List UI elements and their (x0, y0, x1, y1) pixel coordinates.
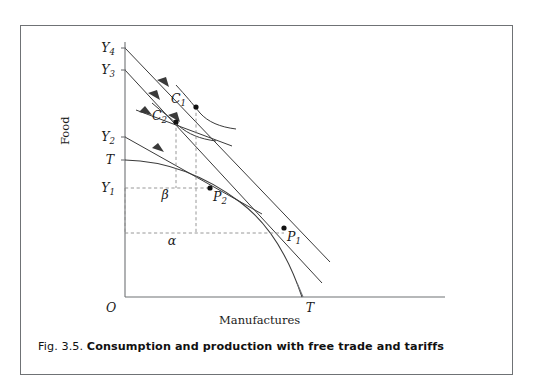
x-axis-tick-t (297, 283, 303, 297)
label-origin: O (106, 300, 116, 315)
point-c1 (193, 104, 198, 109)
label-y3: Y3 (101, 62, 115, 79)
domestic-price-line-y2 (125, 137, 262, 214)
caption-number: Fig. 3.5. (38, 340, 83, 353)
arrowhead-y4-line (157, 77, 169, 87)
label-t-yaxis: T (106, 152, 116, 167)
arrowhead-y3-line (148, 90, 160, 100)
figure-root: Food Manufactures (0, 0, 535, 390)
point-p2 (207, 185, 212, 190)
caption-text: Consumption and production with free tra… (87, 340, 444, 353)
domestic-price-segment-c2 (136, 110, 232, 146)
label-c2: C2 (152, 108, 167, 125)
world-price-line-y3 (125, 70, 322, 283)
arrowhead-y2-line (152, 143, 164, 152)
point-c2 (173, 119, 178, 124)
label-p1: P1 (286, 229, 301, 246)
label-beta: β (160, 187, 168, 202)
point-p1 (281, 225, 286, 230)
transformation-curve (125, 160, 302, 297)
label-y4: Y4 (101, 40, 115, 57)
world-price-line-y4 (125, 48, 330, 262)
figure-caption: Fig. 3.5. Consumption and production wit… (38, 340, 488, 353)
label-alpha: α (168, 233, 177, 248)
diagram-canvas: Y4 Y3 Y2 T Y1 O T C1 C2 P2 P1 β α (0, 0, 535, 390)
label-y2: Y2 (101, 129, 115, 146)
label-y1: Y1 (101, 180, 115, 197)
label-t-xaxis: T (306, 300, 316, 315)
